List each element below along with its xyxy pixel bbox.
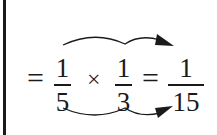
equals-sign-2: = [142,63,159,93]
fraction-bar [168,84,204,86]
multiplication-sign: × [87,67,101,91]
fraction-numerator: 1 [56,55,70,82]
fraction-one-third: 1 3 [115,55,132,116]
fraction-denominator: 3 [117,89,131,116]
fraction-bar [54,84,71,86]
fraction-one-fifth: 1 5 [54,55,71,116]
top-arrow-icon [63,34,174,46]
fraction-denominator: 15 [173,89,200,116]
fraction-denominator: 5 [56,89,70,116]
fraction-numerator: 1 [117,55,131,82]
fraction-numerator: 1 [179,55,193,82]
fraction-bar [115,84,132,86]
equals-sign-1: = [27,63,44,93]
fraction-result: 1 15 [168,55,204,116]
